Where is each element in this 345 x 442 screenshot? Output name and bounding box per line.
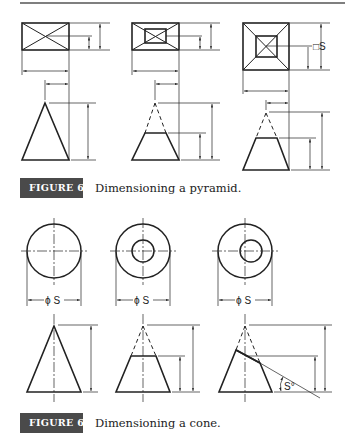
pyramid-3-elevation: [243, 100, 330, 170]
cone-1-plan: [21, 218, 87, 306]
diameter-label-1: ϕ S: [45, 295, 60, 306]
cone-2-plan: [110, 218, 176, 306]
figure-badge: FIGURE 6-87: [20, 178, 83, 198]
square-size-label: □S: [313, 41, 326, 52]
pyramid-2-plan: [132, 23, 220, 160]
diameter-label-2: ϕ S: [134, 295, 149, 306]
figure-6-87-caption: FIGURE 6-87 Dimensioning a pyramid.: [20, 178, 241, 198]
figure-caption-text: Dimensioning a pyramid.: [95, 181, 241, 195]
cone-3-elevation: [219, 314, 332, 402]
figure-6-88-caption: FIGURE 6-88 Dimensioning a cone.: [20, 413, 221, 433]
cone-2-elevation: [116, 314, 200, 402]
diameter-label-3: ϕ S: [236, 295, 251, 306]
figure-caption-text: Dimensioning a cone.: [95, 416, 221, 430]
figure-badge: FIGURE 6-88: [20, 413, 83, 433]
technical-drawing: □S ϕ S ϕ S: [0, 0, 345, 442]
angle-label: S°: [284, 381, 295, 392]
pyramid-1-elevation: [22, 80, 96, 160]
cone-1-elevation: [27, 314, 98, 402]
pyramid-1-plan: [22, 23, 110, 160]
cone-3-plan: [212, 218, 278, 306]
pyramid-2-elevation: [132, 80, 220, 160]
